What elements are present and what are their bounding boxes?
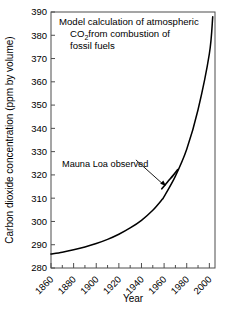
y-tick-label: 390 [31,6,47,17]
y-tick-label: 370 [31,53,47,64]
y-tick-label: 280 [31,262,47,273]
title-line-2-rest: from combustion of [88,28,170,39]
y-tick-label: 310 [31,193,47,204]
y-tick-label: 290 [31,239,47,250]
y-tick-label: 380 [31,30,47,41]
y-tick-label: 320 [31,169,47,180]
co2-model-chart: 280290300310320330340350360370380390 186… [0,0,225,315]
x-tick-label: 1920 [101,274,124,297]
y-tick-label: 300 [31,216,47,227]
title-line-3: fossil fuels [70,40,115,51]
annotation-label: Mauna Loa observed [62,159,148,169]
x-tick-label: 1900 [78,274,101,297]
title-line-1: Model calculation of atmospheric [59,16,199,27]
x-tick-label: 1980 [168,274,191,297]
y-tick-label: 340 [31,123,47,134]
y-tick-label: 360 [31,76,47,87]
y-tick-label: 330 [31,146,47,157]
y-axis-tick-labels: 280290300310320330340350360370380390 [31,6,47,273]
x-tick-label: 1860 [33,274,56,297]
x-tick-label: 2000 [191,274,214,297]
y-axis-title: Carbon dioxide concentration (ppm by vol… [4,36,15,243]
x-tick-label: 1880 [55,274,78,297]
x-axis-title: Year [123,293,144,304]
x-tick-label: 1960 [146,274,169,297]
title-co2-prefix: CO [70,28,84,39]
y-tick-label: 350 [31,99,47,110]
chart-canvas: 280290300310320330340350360370380390 186… [0,0,225,315]
